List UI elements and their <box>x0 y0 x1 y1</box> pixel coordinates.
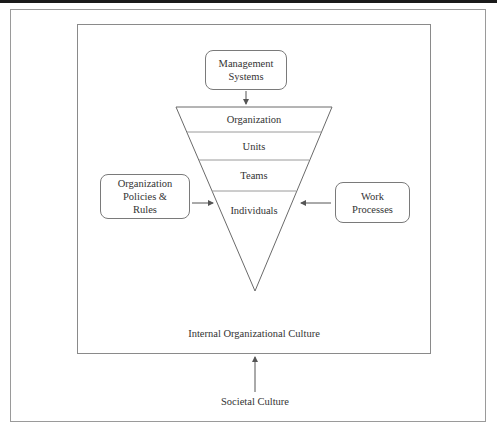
policies-rules-line3: Rules <box>118 203 173 216</box>
societal-culture-label: Societal Culture <box>195 396 315 407</box>
funnel-triangle <box>176 107 332 291</box>
policies-rules-line1: Organization <box>118 177 173 190</box>
management-systems-line2: Systems <box>219 70 274 83</box>
funnel-level-individuals: Individuals <box>194 205 314 216</box>
work-processes-line1: Work <box>352 190 393 203</box>
work-processes-box: Work Processes <box>335 182 410 223</box>
funnel-level-teams: Teams <box>194 170 314 181</box>
policies-rules-box: Organization Policies & Rules <box>100 174 190 219</box>
work-processes-line2: Processes <box>352 203 393 216</box>
internal-culture-label: Internal Organizational Culture <box>154 328 354 339</box>
policies-rules-line2: Policies & <box>118 190 173 203</box>
funnel-level-organization: Organization <box>194 114 314 125</box>
management-systems-line1: Management <box>219 57 274 70</box>
management-systems-box: Management Systems <box>205 50 287 90</box>
funnel-level-units: Units <box>194 141 314 152</box>
